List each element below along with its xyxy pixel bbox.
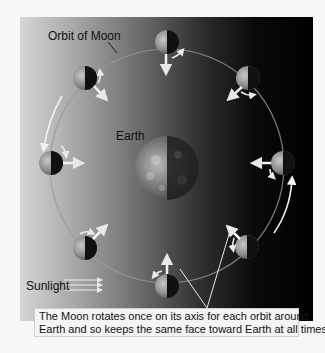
caption-line-1: The Moon rotates once on its axis for ea… [39,310,298,323]
sunlight-label: Sunlight [26,279,69,293]
moon-right [256,151,295,177]
sunlight-arrows [64,280,100,290]
moon-bottom [154,259,179,298]
orbit-pointer [108,42,117,53]
caption-box: The Moon rotates once on its axis for ea… [34,308,299,337]
caption-pointer-2 [207,231,230,308]
moon-left [39,146,79,175]
earth-label: Earth [116,129,145,143]
earth [135,136,199,200]
moon-bottom-left [73,228,104,260]
moon-bottom-right [230,229,259,259]
caption-line-2: Earth and so keeps the same face toward … [39,323,298,336]
orbit-of-moon-label: Orbit of Moon [48,29,121,43]
caption-pointer-1 [180,269,207,308]
orbit-diagram [0,0,325,353]
